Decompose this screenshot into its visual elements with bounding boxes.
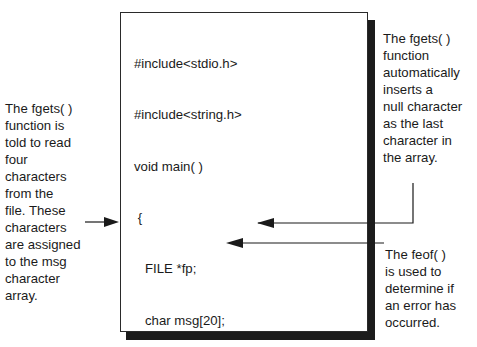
annotation-line: The fgets( ) <box>5 100 100 117</box>
code-line: char msg[20]; <box>134 312 358 329</box>
annotation-line: automatically <box>383 64 477 81</box>
annotation-line: inserts a <box>383 81 477 98</box>
annotation-line: characters <box>5 168 100 185</box>
annotation-fgets-null: The fgets( ) function automatically inse… <box>383 30 477 166</box>
annotation-line: the array. <box>383 149 477 166</box>
annotation-line: to the msg <box>5 253 100 270</box>
annotation-line: from the <box>5 185 100 202</box>
annotation-line: determine if <box>385 280 477 297</box>
annotation-line: The feof( ) <box>385 246 477 263</box>
code-line: #include<stdio.h> <box>134 55 358 72</box>
code-listing-box: #include<stdio.h> #include<string.h> voi… <box>120 12 368 332</box>
code-line: void main( ) <box>134 158 358 175</box>
annotation-line: character <box>5 270 100 287</box>
annotation-line: as the last <box>383 115 477 132</box>
code-line: #include<string.h> <box>134 106 358 123</box>
annotation-line: The fgets( ) <box>383 30 477 47</box>
annotation-line: are assigned <box>5 236 100 253</box>
code-line: { <box>134 209 358 226</box>
annotation-line: characters <box>5 219 100 236</box>
code-listing: #include<stdio.h> #include<string.h> voi… <box>134 21 358 347</box>
annotation-line: character in <box>383 132 477 149</box>
annotation-line: an error has <box>385 297 477 314</box>
annotation-line: array. <box>5 287 100 304</box>
annotation-feof: The feof( ) is used to determine if an e… <box>385 246 477 331</box>
annotation-line: function <box>383 47 477 64</box>
annotation-line: function is <box>5 117 100 134</box>
annotation-line: told to read <box>5 134 100 151</box>
annotation-line: is used to <box>385 263 477 280</box>
annotation-fgets-read: The fgets( ) function is told to read fo… <box>5 100 100 304</box>
code-line: FILE *fp; <box>134 260 358 277</box>
annotation-line: four <box>5 151 100 168</box>
annotation-line: file. These <box>5 202 100 219</box>
annotation-line: null character <box>383 98 477 115</box>
annotation-line: occurred. <box>385 314 477 331</box>
